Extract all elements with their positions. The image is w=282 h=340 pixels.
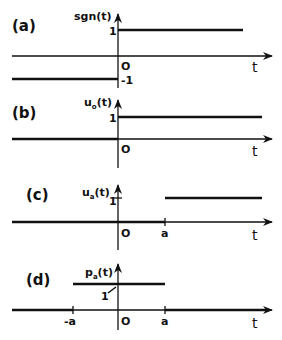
t-label: t [252,315,258,331]
t-label: t [252,143,258,159]
panel-label: (a) [12,17,36,35]
function-label: pa(t) [85,266,113,281]
level-label-1: 1 [109,195,117,208]
t-label: t [252,227,258,243]
function-label: uo(t) [84,96,112,111]
level-label-1: 1 [101,290,109,303]
tick-label-a: a [161,315,168,328]
tick-label-neg-a: -a [64,315,76,328]
origin-label: O [121,227,130,240]
panel-c: (c) ua(t) 1 O a t [12,185,272,250]
function-label: ua(t) [82,186,110,201]
level-label-1: 1 [109,25,117,38]
panel-label: (c) [26,186,49,204]
origin-label: O [121,60,130,73]
function-label: sgn(t) [74,10,112,23]
level-label-1: 1 [109,112,117,125]
tick-label-a: a [161,227,168,240]
panel-label: (d) [26,271,50,289]
panel-a: (a) sgn(t) 1 -1 O t [12,10,272,88]
signal-diagram: (a) sgn(t) 1 -1 O t (b) uo(t) 1 O t (c) … [0,0,282,340]
t-label: t [252,59,258,75]
panel-d: (d) pa(t) 1 -a O a t [12,264,272,331]
level-pointer [108,287,116,293]
panel-label: (b) [12,104,36,122]
origin-label: O [121,315,130,328]
level-label-neg1: -1 [121,74,133,87]
origin-label: O [121,143,130,156]
panel-b: (b) uo(t) 1 O t [12,96,272,168]
